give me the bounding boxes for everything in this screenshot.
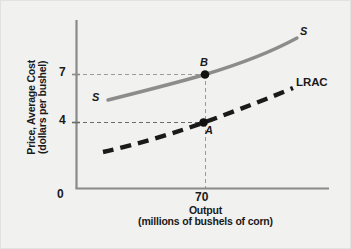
point-b-marker: [201, 70, 210, 79]
y-tick-label-4: 4: [59, 114, 66, 127]
y-axis-title: Price, Average Cost (dollars per bushel): [26, 27, 49, 187]
supply-curve: [108, 38, 297, 100]
y-axis-title-line2: (dollars per bushel): [37, 27, 48, 187]
point-a-label: A: [205, 125, 213, 137]
y-tick-label-7: 7: [59, 66, 66, 79]
x-axis-title: Output (millions of bushels of corn): [78, 205, 333, 228]
x-axis-title-line2: (millions of bushels of corn): [78, 216, 333, 227]
lrac-curve-label: LRAC: [296, 76, 328, 88]
supply-curve-label-right: S: [300, 26, 307, 38]
lrac-curve: [103, 88, 293, 152]
economics-cost-curve-figure: Price, Average Cost (dollars per bushel)…: [0, 0, 351, 249]
supply-curve-label-left: S: [92, 92, 99, 104]
origin-label: 0: [57, 188, 64, 201]
x-tick-label-70: 70: [195, 191, 208, 204]
point-b-label: B: [200, 57, 208, 69]
